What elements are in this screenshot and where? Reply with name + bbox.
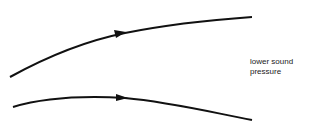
lower-arrow-icon bbox=[116, 94, 128, 101]
upper-streamline bbox=[10, 17, 252, 77]
lower-sound-pressure-label: lower sound pressure bbox=[250, 57, 293, 77]
label-line-2: pressure bbox=[250, 67, 293, 77]
label-line-1: lower sound bbox=[250, 57, 293, 67]
lower-streamline bbox=[13, 97, 252, 120]
